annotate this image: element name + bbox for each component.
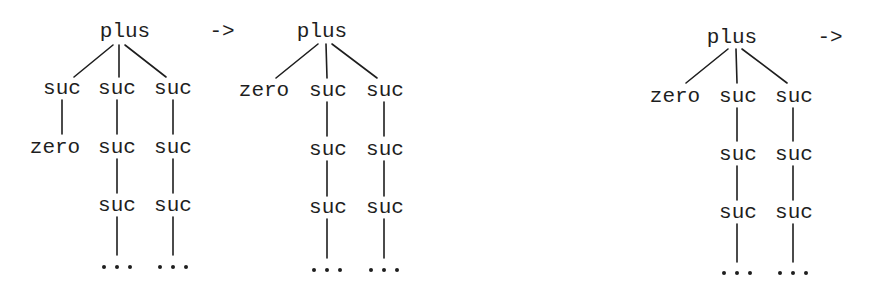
rewrite-arrow-1: -> [209, 21, 234, 42]
ellipsis-icon [158, 265, 188, 269]
tree-3-node: suc [775, 144, 813, 165]
tree-1-node: suc [43, 78, 81, 99]
tree-2-node: suc [309, 80, 347, 101]
tree-1-node: suc [98, 195, 136, 216]
tree-1-node: suc [154, 137, 192, 158]
tree-2-root-node: plus [297, 21, 347, 42]
tree-2-node: zero [239, 80, 289, 101]
tree-1-node: zero [30, 137, 80, 158]
ellipsis-icon [778, 271, 808, 275]
tree-1-node: suc [98, 78, 136, 99]
tree-3-node: suc [719, 144, 757, 165]
ellipsis-icon [722, 271, 752, 275]
tree-2-node: suc [309, 197, 347, 218]
tree-1-root-node: plus [100, 21, 150, 42]
tree-2-node: suc [366, 80, 404, 101]
tree-3-node: suc [775, 202, 813, 223]
tree-3-node: zero [650, 86, 700, 107]
tree-3-node: suc [775, 86, 813, 107]
tree-3-node: suc [719, 202, 757, 223]
tree-1-node: suc [154, 78, 192, 99]
tree-3-node: suc [719, 86, 757, 107]
rewrite-arrow-2: -> [817, 27, 842, 48]
ellipsis-icon [312, 268, 342, 272]
ellipsis-icon [102, 265, 132, 269]
tree-2-node: suc [366, 139, 404, 160]
tree-2-node: suc [366, 197, 404, 218]
term-rewriting-diagram: plus -> suc zero suc suc suc suc suc suc… [0, 0, 870, 295]
tree-1-node: suc [154, 195, 192, 216]
tree-2-node: suc [309, 139, 347, 160]
ellipsis-icon [369, 268, 399, 272]
tree-1-node: suc [98, 137, 136, 158]
tree-3-root-node: plus [707, 27, 757, 48]
